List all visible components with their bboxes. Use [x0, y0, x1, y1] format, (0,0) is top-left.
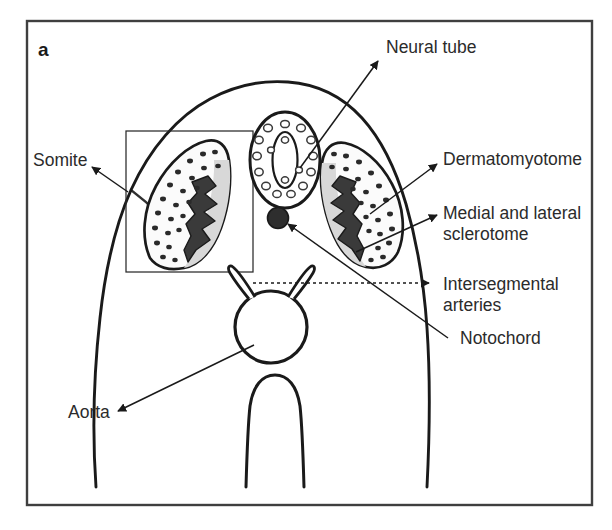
embryo-cross-section-figure: a — [0, 0, 612, 530]
label-intersegmental-line1: Intersegmental — [443, 274, 559, 294]
label-sclerotome-line1: Medial and lateral — [443, 203, 581, 223]
label-neural-tube: Neural tube — [386, 37, 476, 57]
panel-letter: a — [38, 39, 49, 60]
notochord — [268, 208, 289, 229]
neural-tube — [250, 112, 320, 208]
dorsal-aorta — [235, 291, 307, 363]
label-somite: Somite — [33, 150, 87, 170]
label-sclerotome-line2: sclerotome — [443, 224, 529, 244]
figure-border — [27, 21, 592, 505]
label-intersegmental-line2: arteries — [443, 295, 502, 315]
label-aorta: Aorta — [68, 402, 110, 422]
figure-page: a — [0, 0, 612, 530]
label-dermatomyotome: Dermatomyotome — [443, 149, 582, 169]
label-notochord: Notochord — [460, 328, 541, 348]
